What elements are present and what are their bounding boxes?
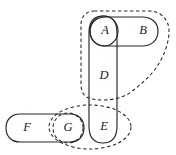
diagram-canvas: A B D E F G <box>0 0 176 155</box>
node-label-D: D <box>98 68 108 82</box>
node-label-E: E <box>99 119 108 133</box>
set-diagram: A B D E F G <box>0 0 176 155</box>
node-label-B: B <box>139 23 147 37</box>
node-label-G: G <box>63 120 72 134</box>
node-label-A: A <box>100 23 109 37</box>
node-label-F: F <box>22 120 31 134</box>
